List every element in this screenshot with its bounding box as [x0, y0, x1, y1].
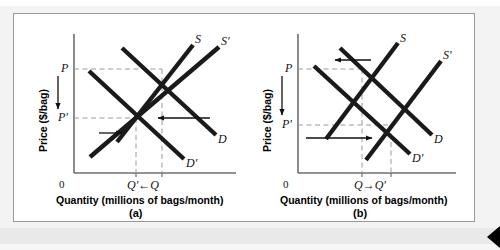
x-tick-label-group: Q'←Q — [127, 179, 159, 191]
y-axis-title: Price ($/bag) — [262, 89, 273, 152]
panel-a: S S' D D' P P' 0 Q'←Q Price ($/bag) Quan… — [14, 14, 245, 221]
curve-label-supply-shifted: S' — [221, 35, 230, 47]
x-axis-title: Quantity (millions of bags/month) — [280, 195, 447, 206]
origin-label: 0 — [59, 179, 65, 190]
curve-label-demand-shifted: D' — [186, 157, 197, 169]
y-tick-label-p-final: P' — [58, 111, 68, 123]
x-axis-title: Quantity (millions of bags/month) — [56, 195, 223, 206]
curve-supply-shifted — [90, 47, 219, 157]
panel-caption: (a) — [129, 208, 142, 219]
y-axis-title: Price ($/bag) — [38, 89, 49, 152]
curve-label-supply-initial: S — [400, 32, 406, 44]
panel-b: S S' D D' P P' 0 Q→Q' Price ($/bag) Quan… — [236, 14, 467, 221]
curve-label-demand-initial: D — [434, 133, 443, 145]
curve-label-demand-shifted: D' — [412, 152, 423, 164]
curve-supply-initial — [117, 45, 193, 142]
y-tick-label-p-final: P' — [282, 118, 292, 130]
figure-frame: S S' D D' P P' 0 Q'←Q Price ($/bag) Quan… — [13, 13, 475, 222]
curve-label-supply-shifted: S' — [443, 49, 452, 61]
x-tick-label-group: Q→Q' — [354, 179, 386, 191]
figure-page: S S' D D' P P' 0 Q'←Q Price ($/bag) Quan… — [0, 0, 500, 250]
origin-label: 0 — [283, 179, 289, 190]
curve-label-demand-initial: D — [218, 133, 227, 145]
y-tick-label-p-initial: P — [61, 62, 68, 74]
y-tick-label-p-initial: P — [285, 62, 292, 74]
curve-label-supply-initial: S — [195, 33, 201, 45]
corner-pointer-icon — [487, 226, 500, 248]
panel-caption: (b) — [353, 208, 367, 219]
